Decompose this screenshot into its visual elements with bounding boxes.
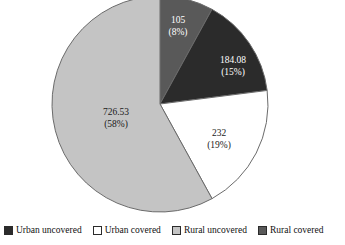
chart-legend: Urban uncoveredUrban coveredRural uncove… [0, 216, 345, 245]
pie-chart: 105(8%)184.08(15%)232(19%)726.53(58%) Ur… [0, 0, 345, 245]
slice-value-label: 105 [171, 15, 186, 25]
slice-percent-label: (15%) [221, 67, 245, 78]
legend-item-label: Urban uncovered [16, 226, 82, 236]
slice-percent-label: (8%) [169, 27, 188, 38]
pie-plot-area: 105(8%)184.08(15%)232(19%)726.53(58%) [0, 0, 345, 214]
slice-value-label: 726.53 [103, 107, 129, 117]
legend-item-label: Rural uncovered [184, 226, 247, 236]
legend-item[interactable]: Rural uncovered [172, 226, 247, 236]
legend-item-label: Rural covered [270, 226, 324, 236]
legend-item[interactable]: Rural covered [258, 226, 324, 236]
legend-item-label: Urban covered [105, 226, 161, 236]
slice-value-label: 184.08 [220, 55, 246, 65]
slice-percent-label: (19%) [207, 140, 231, 151]
legend-swatch-icon [93, 226, 102, 235]
pie-svg: 105(8%)184.08(15%)232(19%)726.53(58%) [0, 0, 345, 214]
legend-swatch-icon [258, 226, 267, 235]
legend-swatch-icon [172, 226, 181, 235]
slice-percent-label: (58%) [104, 119, 128, 130]
legend-item[interactable]: Urban covered [93, 226, 161, 236]
pie-slices [52, 0, 268, 212]
slice-value-label: 232 [212, 128, 227, 138]
legend-swatch-icon [4, 226, 13, 235]
legend-item[interactable]: Urban uncovered [4, 226, 82, 236]
